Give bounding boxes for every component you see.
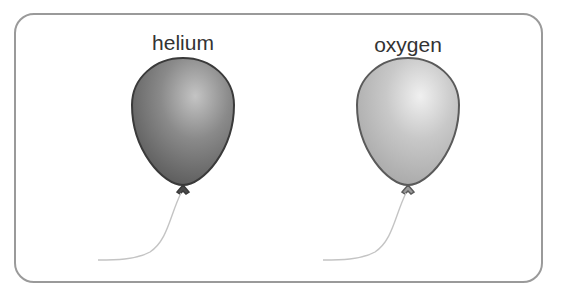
balloon-string [323,193,406,260]
balloon-knot-icon [402,185,414,194]
helium-label: helium [113,31,253,55]
balloon-knot-icon [177,185,189,194]
balloon-string [98,193,181,260]
oxygen-balloon [323,58,459,260]
helium-balloon [98,58,234,260]
oxygen-label: oxygen [338,33,478,57]
